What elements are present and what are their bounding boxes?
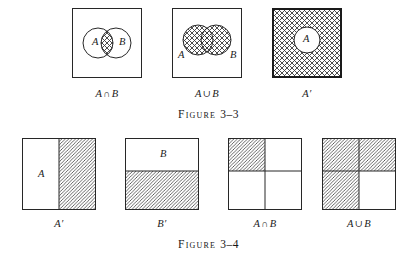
- caption-left-operand: A: [347, 218, 354, 229]
- set-label-b: B: [160, 149, 166, 160]
- shaded-top-left-quadrant: [323, 139, 359, 171]
- caption-left-operand: A: [195, 88, 202, 99]
- caption-operator: ∪: [202, 89, 212, 99]
- panel-caption: A∩B: [72, 88, 142, 99]
- figure-title-word: Figure: [178, 238, 216, 250]
- set-label-b: B: [119, 37, 125, 48]
- set-label-a: A: [92, 37, 98, 48]
- shaded-right-half: [59, 139, 95, 209]
- caption-right-operand: B: [212, 88, 219, 99]
- rect-diagram-union: [322, 138, 396, 210]
- caption-operator: ∩: [260, 219, 269, 229]
- caption-prime: ′: [164, 218, 167, 229]
- figure-title-word: Figure: [178, 108, 216, 120]
- circle-b: [201, 25, 231, 55]
- caption-prime: ′: [309, 88, 312, 99]
- figure-title-number: 3–4: [220, 238, 239, 250]
- panel-caption: A′: [272, 88, 342, 99]
- figure-title-number: 3–3: [220, 108, 239, 120]
- panel-rect-b-complement: B B′: [125, 138, 199, 238]
- shaded-bottom-half: [126, 171, 198, 209]
- panel-caption: A∪B: [172, 88, 242, 99]
- panel-a-intersection-b: A B A∩B: [72, 8, 142, 112]
- figure-3-3-title: Figure 3–3: [0, 108, 417, 120]
- set-label-b: B: [230, 50, 236, 61]
- panel-rect-a-complement: A A′: [22, 138, 96, 238]
- panel-caption: A∪B: [322, 218, 396, 229]
- caption-right-operand: B: [112, 88, 119, 99]
- shaded-top-left-quadrant: [229, 139, 265, 171]
- panel-caption: A∩B: [228, 218, 302, 229]
- panel-caption: B′: [125, 218, 199, 229]
- rect-diagram-a-complement: [22, 138, 96, 210]
- shaded-bottom-left-quadrant: [323, 171, 359, 209]
- panel-rect-union: A∪B: [322, 138, 396, 238]
- panel-rect-intersection: A∩B: [228, 138, 302, 238]
- caption-prime: ′: [61, 218, 64, 229]
- set-label-a: A: [178, 50, 184, 61]
- figure-3-4-title: Figure 3–4: [0, 238, 417, 250]
- caption-right-operand: B: [364, 218, 371, 229]
- rect-diagram-intersection: [228, 138, 302, 210]
- panel-caption: A′: [22, 218, 96, 229]
- set-label-a: A: [38, 169, 44, 180]
- panel-a-complement: A A′: [272, 8, 342, 112]
- caption-right-operand: B: [270, 218, 277, 229]
- panel-a-union-b: A B A∪B: [172, 8, 242, 112]
- caption-operator: ∪: [354, 219, 364, 229]
- figure-page: A B A∩B A B A∪B A A′ Figure 3–3: [0, 0, 417, 264]
- venn-diagram-intersection: [72, 8, 142, 78]
- venn-diagram-union: [172, 8, 242, 78]
- shaded-top-right-quadrant: [359, 139, 395, 171]
- caption-operator: ∩: [102, 89, 111, 99]
- set-label-a: A: [303, 34, 309, 45]
